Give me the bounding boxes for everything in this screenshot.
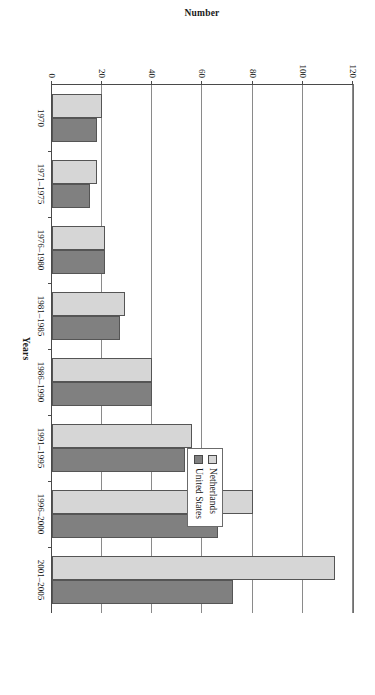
light-gray-swatch-icon xyxy=(208,455,217,464)
y-axis-tick-label: 60 xyxy=(198,69,208,78)
x-axis-tick-label: 1986–1990 xyxy=(36,362,46,403)
y-axis-tick-label: 100 xyxy=(298,65,308,79)
x-axis-tick xyxy=(48,151,52,152)
y-axis-tick xyxy=(252,81,253,85)
rotated-figure-wrapper: Netherlands United States Number Years 0… xyxy=(0,0,375,695)
x-axis-tick-label: 1970 xyxy=(36,109,46,127)
bar-group xyxy=(52,94,353,142)
bar-netherlands xyxy=(52,226,105,250)
bar-group xyxy=(52,556,353,604)
x-axis-tick xyxy=(48,283,52,284)
x-axis-tick xyxy=(48,481,52,482)
bar-group xyxy=(52,226,353,274)
y-axis-tick-label: 120 xyxy=(348,65,358,79)
x-axis-tick-label: 1991–1995 xyxy=(36,428,46,469)
y-axis-title: Number xyxy=(51,6,353,20)
chart-legend: Netherlands United States xyxy=(187,448,223,527)
dark-gray-swatch-icon xyxy=(194,455,203,464)
bar-netherlands xyxy=(52,358,152,382)
bar-netherlands xyxy=(52,292,125,316)
bar-netherlands xyxy=(52,424,192,448)
y-axis-tick xyxy=(202,81,203,85)
legend-item-united-states: United States xyxy=(193,455,204,519)
bar-united-states xyxy=(52,382,152,406)
bar-united-states xyxy=(52,118,97,142)
bar-united-states xyxy=(52,250,105,274)
legend-item-netherlands: Netherlands xyxy=(207,455,218,519)
y-axis-tick-label: 40 xyxy=(147,69,157,78)
y-axis-tick xyxy=(101,81,102,85)
y-axis-tick xyxy=(151,81,152,85)
bar-netherlands xyxy=(52,94,102,118)
x-axis-tick-label: 1996–2000 xyxy=(36,494,46,535)
bar-chart-figure: Netherlands United States Number Years 0… xyxy=(0,0,375,695)
bar-united-states xyxy=(52,580,233,604)
bar-group xyxy=(52,292,353,340)
y-axis-tick-label: 20 xyxy=(97,69,107,78)
bar-united-states xyxy=(52,316,120,340)
bar-united-states xyxy=(52,448,185,472)
bar-netherlands xyxy=(52,556,335,580)
y-axis-tick xyxy=(352,81,353,85)
plot-area: 02040608010012019701971–19751976–1980198… xyxy=(51,84,353,613)
x-axis-tick-label: 2001–2005 xyxy=(36,560,46,601)
x-axis-tick xyxy=(48,415,52,416)
bar-united-states xyxy=(52,184,90,208)
x-axis-tick xyxy=(48,349,52,350)
legend-label-netherlands: Netherlands xyxy=(207,468,218,514)
x-axis-tick-label: 1981–1985 xyxy=(36,296,46,337)
y-axis-tick-label: 80 xyxy=(248,69,258,78)
chart-page: Netherlands United States Number Years 0… xyxy=(0,0,375,695)
y-axis-title-text: Number xyxy=(185,8,220,18)
x-axis-tick xyxy=(48,547,52,548)
bar-group xyxy=(52,358,353,406)
y-axis-tick-label: 0 xyxy=(47,74,57,79)
x-axis-tick-label: 1971–1975 xyxy=(36,164,46,205)
y-axis-tick xyxy=(302,81,303,85)
legend-label-united-states: United States xyxy=(193,468,204,519)
x-axis-tick-label: 1976–1980 xyxy=(36,230,46,271)
x-axis-tick xyxy=(48,217,52,218)
y-axis-tick xyxy=(51,81,52,85)
bar-netherlands xyxy=(52,160,97,184)
bar-group xyxy=(52,160,353,208)
x-axis-title: Years xyxy=(21,84,31,613)
